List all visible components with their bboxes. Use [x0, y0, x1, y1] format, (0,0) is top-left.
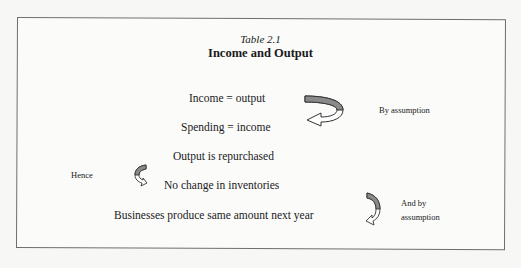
line-spending-income: Spending = income [181, 121, 271, 133]
line-income-output: Income = output [189, 92, 265, 104]
line-output-repurchased: Output is repurchased [173, 150, 274, 162]
table-caption: Table 2.1 [0, 33, 521, 45]
table-title: Income and Output [0, 46, 521, 61]
curved-arrow-down-right-icon [364, 191, 384, 229]
annotation-assumption: assumption [401, 212, 440, 222]
line-no-change-inventories: No change in inventories [164, 179, 279, 191]
annotation-and-by: And by [401, 198, 426, 208]
curved-arrow-down-left-icon [303, 94, 349, 132]
curved-arrow-down-small-icon [133, 163, 149, 189]
annotation-by-assumption: By assumption [379, 105, 430, 115]
annotation-hence: Hence [71, 170, 93, 180]
line-businesses-produce: Businesses produce same amount next year [114, 209, 314, 221]
